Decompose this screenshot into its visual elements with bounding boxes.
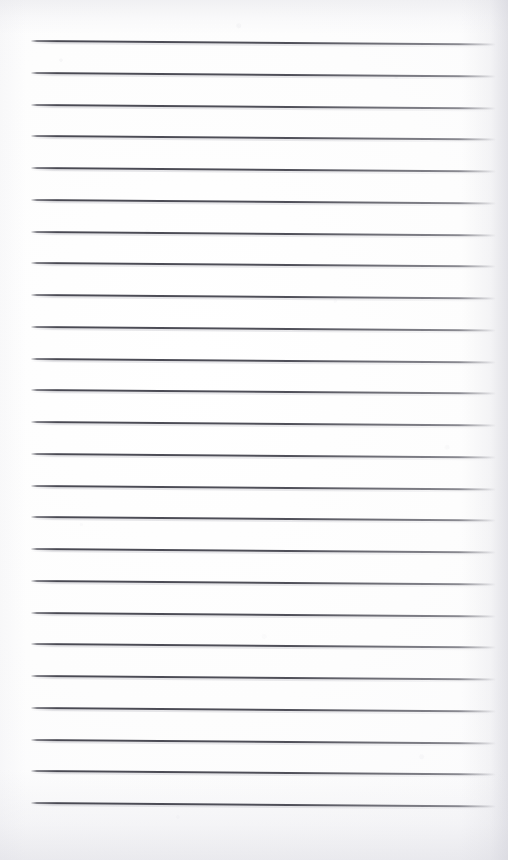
ruled-line xyxy=(31,770,496,775)
ruled-line xyxy=(31,358,496,363)
ruled-line xyxy=(31,72,496,77)
notepad-page xyxy=(0,0,508,860)
ruled-line xyxy=(31,199,496,204)
ruled-line xyxy=(31,707,496,712)
ruled-line xyxy=(31,643,496,648)
ruled-line xyxy=(31,421,496,426)
ruled-line xyxy=(31,612,496,617)
ruled-line xyxy=(31,516,496,521)
ruled-line xyxy=(31,294,496,299)
ruled-line xyxy=(31,135,496,140)
ruled-line xyxy=(31,40,496,45)
ruled-line xyxy=(31,262,496,267)
ruled-line xyxy=(31,389,496,394)
ruled-line xyxy=(31,231,496,236)
ruled-line xyxy=(31,485,496,490)
ruled-line xyxy=(31,453,496,458)
ruled-line xyxy=(31,167,496,172)
ruled-line xyxy=(31,739,496,744)
ruled-line xyxy=(31,675,496,680)
ruled-line xyxy=(31,580,496,585)
ruled-line xyxy=(31,326,496,331)
ruled-line xyxy=(31,548,496,553)
ruled-line xyxy=(31,802,496,807)
ruled-line xyxy=(31,104,496,109)
ruled-lines-layer xyxy=(0,0,508,860)
